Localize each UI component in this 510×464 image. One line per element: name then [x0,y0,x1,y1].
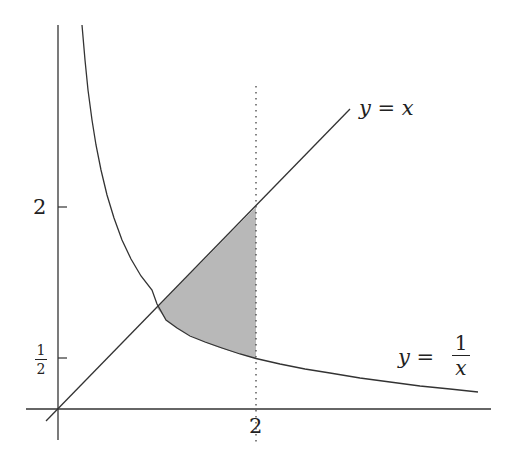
y-tick-label-half-numerator: 1 [37,343,46,357]
label-y-equals-1-over-x: y = [398,347,434,368]
x-tick-label-2: 2 [249,416,262,437]
label-reciprocal-denominator: x [455,358,466,378]
line-y-equals-x [46,109,350,421]
y-tick-label-half: 1 2 [35,343,47,376]
label-reciprocal-fraction: 1 x [452,333,470,378]
label-y-equals-x-rhs: x [402,96,414,120]
label-y-equals-x-eq: = [378,96,396,120]
label-reciprocal-eq: = [417,345,435,369]
label-y-equals-x: y = x [359,98,414,119]
label-reciprocal-numerator: 1 [455,333,468,353]
curve-y-equals-1-over-x [82,25,478,392]
function-plot [0,0,510,464]
label-y-equals-x-lhs: y [359,96,371,120]
y-tick-label-half-denominator: 2 [37,362,46,376]
shaded-region [157,207,256,359]
fraction-bar [35,359,47,360]
y-tick-label-2: 2 [33,197,46,218]
label-reciprocal-lhs: y [398,345,410,369]
